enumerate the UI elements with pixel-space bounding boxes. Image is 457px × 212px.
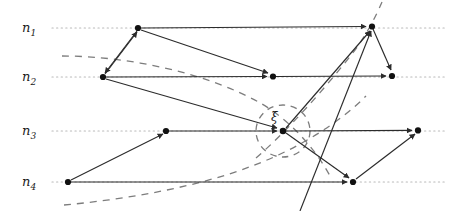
event-label-xi: ξ <box>271 110 278 124</box>
axis-label-n2: n2 <box>22 69 36 87</box>
dashed-cone-curves <box>62 2 382 205</box>
edge-c-a <box>105 32 137 74</box>
worldline-diagram: n1 n2 n3 n4 ξ <box>0 0 457 211</box>
node-c <box>100 74 106 80</box>
edge-b-e <box>373 29 391 70</box>
node-xi <box>280 128 287 135</box>
axis-label-n1: n1 <box>22 20 36 38</box>
edge-j-b <box>300 31 371 211</box>
edge-c-g <box>106 79 277 128</box>
dashed-curve-past-upper <box>62 56 330 176</box>
message-edges <box>71 27 415 212</box>
edge-g-b <box>286 31 370 128</box>
node-j <box>350 179 356 185</box>
axis-lines <box>52 28 447 182</box>
node-b <box>369 23 375 29</box>
node-a <box>135 25 141 31</box>
node-h <box>415 127 421 133</box>
edge-g-j <box>286 133 349 178</box>
event-nodes <box>65 23 421 185</box>
edge-g-h <box>286 130 412 131</box>
diagram-canvas <box>0 0 457 211</box>
axis-label-n1-sub: 1 <box>30 28 36 38</box>
axis-label-n3-sub: 3 <box>30 131 36 141</box>
edge-a-c <box>105 31 137 73</box>
node-i <box>65 179 71 185</box>
axis-label-n4: n4 <box>22 174 36 192</box>
dashed-curve-past-lower <box>64 96 366 205</box>
axis-label-n3: n3 <box>22 123 36 141</box>
node-f <box>163 128 169 134</box>
dashed-curve-future <box>256 2 382 158</box>
node-d <box>270 73 276 79</box>
axis-label-n4-sub: 4 <box>30 182 36 192</box>
node-e <box>389 73 395 79</box>
edge-a-d <box>141 30 268 73</box>
edge-i-f <box>71 134 163 180</box>
edge-j-h <box>356 134 415 179</box>
edge-c-d <box>106 77 267 78</box>
axis-label-n2-sub: 2 <box>30 77 36 87</box>
